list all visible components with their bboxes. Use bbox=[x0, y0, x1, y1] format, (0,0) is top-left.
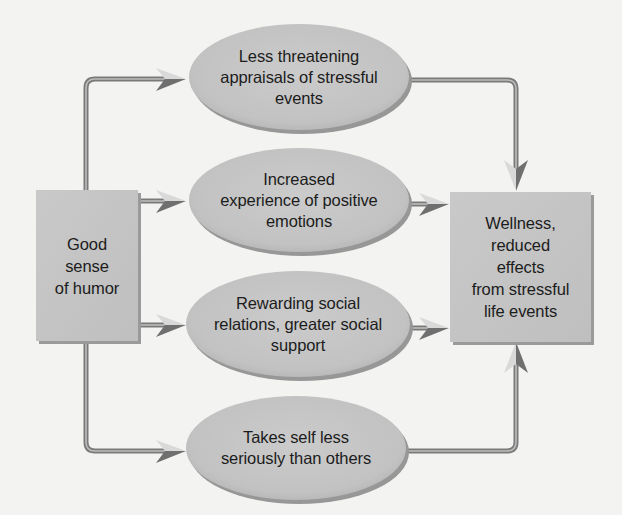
mediator-label-emotions: Increased experience of positive emotion… bbox=[189, 150, 409, 250]
outcome-label-wellness: Wellness, reduced effects from stressful… bbox=[450, 192, 591, 342]
connector-humor-appraisals bbox=[86, 79, 168, 190]
mediator-label-social: Rewarding social relations, greater soci… bbox=[186, 274, 410, 374]
connector-humor-selfserious bbox=[86, 340, 168, 451]
mediator-label-selfserious: Takes self less seriously than others bbox=[186, 398, 406, 498]
mediator-label-appraisals: Less threatening appraisals of stressful… bbox=[189, 27, 409, 127]
source-label-humor: Good sense of humor bbox=[36, 190, 138, 341]
connector-selfserious-wellness bbox=[404, 362, 516, 451]
connector-appraisals-wellness bbox=[408, 80, 516, 170]
humor-wellness-diagram: Good sense of humor Wellness, reduced ef… bbox=[0, 0, 622, 515]
